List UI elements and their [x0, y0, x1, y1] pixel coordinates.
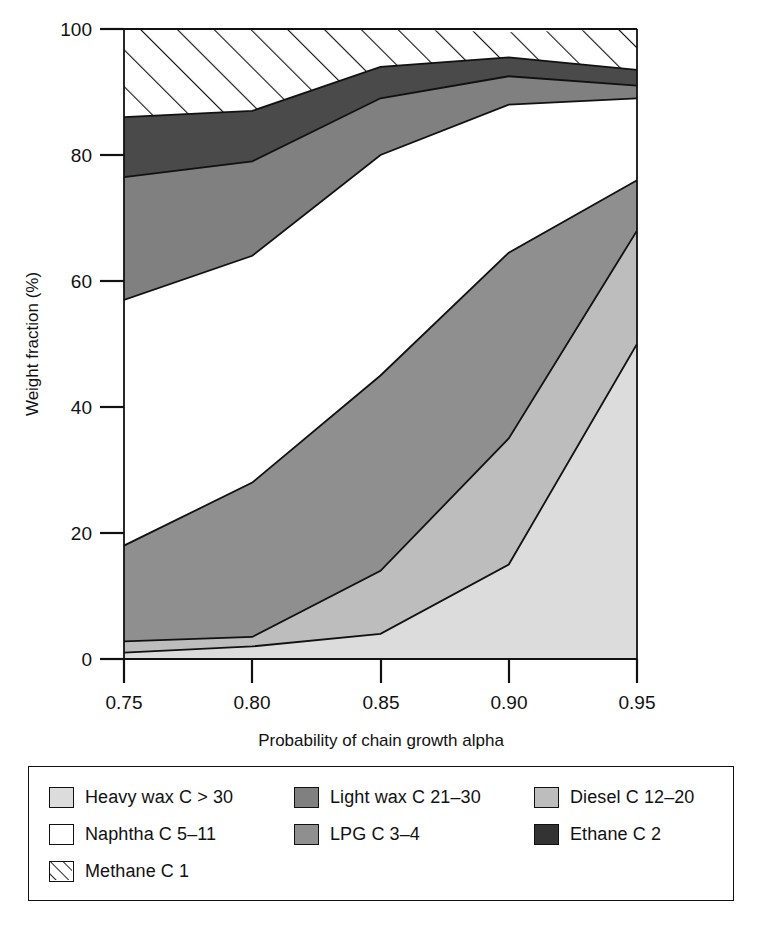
legend-label-lpg: LPG C 3–4	[330, 824, 420, 845]
swatch-methane-icon	[49, 861, 74, 882]
x-tick-label-075: 0.75	[106, 692, 143, 713]
legend-item-naphtha[interactable]: Naphtha C 5–11	[49, 824, 294, 845]
legend-grid: Heavy wax C > 30 Light wax C 21–30 Diese…	[49, 779, 719, 890]
y-axis-ticks	[100, 29, 124, 659]
legend-row: Naphtha C 5–11 LPG C 3–4 Ethane C 2	[49, 816, 719, 853]
legend-label-ethane: Ethane C 2	[570, 824, 661, 845]
legend-label-heavy-wax: Heavy wax C > 30	[85, 787, 233, 808]
legend-item-methane[interactable]: Methane C 1	[49, 861, 294, 882]
legend-item-light-wax[interactable]: Light wax C 21–30	[294, 787, 534, 808]
legend-row: Heavy wax C > 30 Light wax C 21–30 Diese…	[49, 779, 719, 816]
y-tick-label-40: 40	[71, 397, 92, 418]
legend-label-methane: Methane C 1	[85, 861, 189, 882]
x-tick-label-090: 0.90	[491, 692, 528, 713]
chart-legend: Heavy wax C > 30 Light wax C 21–30 Diese…	[28, 766, 734, 901]
legend-row: Methane C 1	[49, 853, 719, 890]
swatch-light-wax-icon	[294, 787, 319, 808]
legend-label-diesel: Diesel C 12–20	[570, 787, 694, 808]
legend-item-lpg[interactable]: LPG C 3–4	[294, 824, 534, 845]
legend-item-heavy-wax[interactable]: Heavy wax C > 30	[49, 787, 294, 808]
swatch-lpg-icon	[294, 824, 319, 845]
swatch-ethane-icon	[534, 824, 559, 845]
plot-canvas: 100 80 60 40 20 0 0.75 0.80 0.85 0.90 0.…	[0, 0, 764, 760]
y-tick-label-80: 80	[71, 145, 92, 166]
x-axis-ticks	[124, 659, 637, 683]
y-tick-label-100: 100	[60, 19, 92, 40]
x-tick-label-095: 0.95	[619, 692, 656, 713]
swatch-naphtha-icon	[49, 824, 74, 845]
chart-page: 100 80 60 40 20 0 0.75 0.80 0.85 0.90 0.…	[0, 0, 764, 929]
swatch-diesel-icon	[534, 787, 559, 808]
swatch-heavy-wax-icon	[49, 787, 74, 808]
y-axis-title: Weight fraction (%)	[23, 272, 42, 416]
y-tick-label-60: 60	[71, 271, 92, 292]
x-tick-label-080: 0.80	[234, 692, 271, 713]
y-tick-label-0: 0	[81, 649, 92, 670]
x-axis-title: Probability of chain growth alpha	[258, 731, 504, 750]
legend-label-light-wax: Light wax C 21–30	[330, 787, 481, 808]
legend-label-naphtha: Naphtha C 5–11	[85, 824, 216, 845]
x-tick-label-085: 0.85	[363, 692, 400, 713]
legend-item-diesel[interactable]: Diesel C 12–20	[534, 787, 694, 808]
area-bands-group	[124, 29, 637, 659]
legend-item-ethane[interactable]: Ethane C 2	[534, 824, 661, 845]
y-tick-label-20: 20	[71, 523, 92, 544]
stacked-area-chart: 100 80 60 40 20 0 0.75 0.80 0.85 0.90 0.…	[0, 0, 764, 760]
